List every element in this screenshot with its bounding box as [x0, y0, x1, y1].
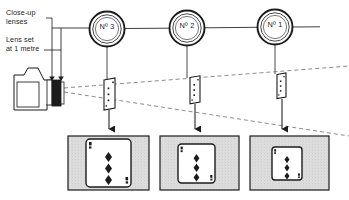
photo-frame-1	[250, 136, 329, 190]
label-leader-lines	[44, 18, 61, 50]
subject-card-3	[104, 78, 115, 110]
card-index-1	[274, 149, 276, 154]
card-pips-2	[194, 154, 200, 182]
photo-frame-3	[68, 136, 149, 190]
lens-label-2: Nº 2	[172, 21, 202, 30]
subject-card-2	[190, 76, 200, 104]
card-index-2	[181, 147, 183, 152]
card-index-1-corner	[298, 173, 300, 178]
lens-drop-lines	[52, 28, 61, 80]
photo-frame-2	[160, 136, 239, 190]
subject-card-1	[277, 73, 286, 99]
card-pips-1	[285, 156, 290, 180]
card-index-2-corner	[210, 175, 212, 181]
card-index-3	[89, 142, 92, 149]
label-closeup-lenses: Close-up lenses	[6, 9, 36, 26]
camera-icon	[14, 68, 64, 110]
card-pips-3	[105, 152, 112, 185]
card-index-3-corner	[126, 177, 129, 184]
lens-subject-stems	[107, 45, 275, 81]
result-arrows	[109, 99, 282, 129]
lens-label-3: Nº 3	[92, 22, 122, 31]
lens-label-1: Nº 1	[260, 20, 290, 29]
closeup-lens-diagram	[0, 0, 349, 200]
label-lens-setting: Lens set at 1 metre	[6, 36, 39, 53]
